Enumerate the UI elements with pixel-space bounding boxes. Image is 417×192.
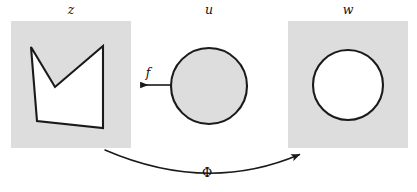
conformal-mapping-diagram: z u w f Φ [0,0,417,192]
diagram-canvas: z u w f Φ [0,0,417,192]
arrow-f: f [141,65,172,85]
panel-label-u: u [205,2,213,17]
panel-label-w: w [343,2,354,17]
arrow-phi-label: Φ [202,165,212,180]
disk-shape-u [171,48,247,124]
panel-label-z: z [67,2,75,17]
disk-shape-w [313,50,383,120]
panel-w: w [288,2,408,148]
arrow-f-label: f [145,65,153,80]
arrow-phi: Φ [105,150,300,180]
panel-u: u [171,2,247,124]
panel-z: z [11,2,131,148]
